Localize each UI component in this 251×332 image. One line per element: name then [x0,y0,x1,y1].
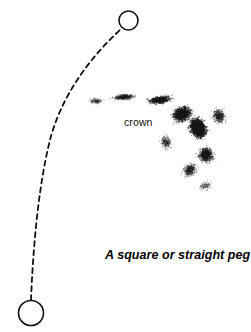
bottom-circle-marker [19,301,44,326]
figure-canvas [0,0,251,332]
crown-label: crown [124,116,153,128]
peg-trajectory-figure: crown A square or straight peg [0,0,251,332]
crown-spray-stipple [89,93,227,191]
top-circle-marker [119,11,138,30]
figure-caption: A square or straight peg [105,248,250,262]
